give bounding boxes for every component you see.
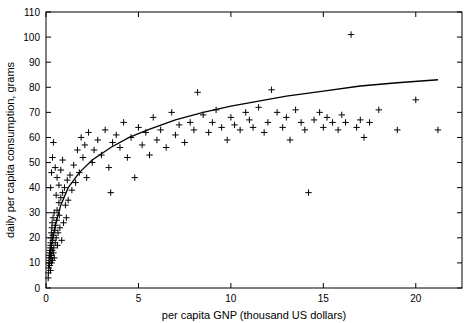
data-point-marker — [50, 139, 56, 145]
y-tick-label: 20 — [29, 232, 41, 243]
data-point-marker — [324, 114, 330, 120]
data-point-marker — [298, 119, 304, 125]
data-point-marker — [58, 167, 64, 173]
data-point-marker — [376, 107, 382, 113]
fit-curve — [49, 80, 438, 268]
y-tick-label: 60 — [29, 132, 41, 143]
data-point-marker — [250, 124, 256, 130]
data-point-marker — [91, 147, 97, 153]
y-tick-label: 50 — [29, 157, 41, 168]
data-point-marker — [52, 164, 58, 170]
data-point-marker — [305, 189, 311, 195]
y-tick-label: 10 — [29, 257, 41, 268]
data-point-marker — [194, 89, 200, 95]
data-point-marker — [59, 237, 65, 243]
data-point-marker — [132, 174, 138, 180]
data-point-marker — [120, 119, 126, 125]
data-point-marker — [85, 129, 91, 135]
data-point-marker — [342, 119, 348, 125]
data-point-marker — [339, 112, 345, 118]
data-point-marker — [139, 142, 145, 148]
data-point-marker — [335, 127, 341, 133]
data-point-marker — [157, 127, 163, 133]
data-point-marker — [69, 187, 75, 193]
x-tick-label: 20 — [410, 293, 422, 304]
data-point-marker — [154, 137, 160, 143]
data-point-marker — [124, 154, 130, 160]
data-point-marker — [265, 119, 271, 125]
data-point-marker — [117, 144, 123, 150]
y-tick-label: 90 — [29, 57, 41, 68]
data-point-marker — [329, 119, 335, 125]
data-points — [45, 31, 441, 281]
data-point-marker — [255, 104, 261, 110]
data-point-marker — [56, 182, 62, 188]
chart-container: 0102030405060708090100110 05101520 per c… — [0, 0, 476, 323]
data-point-marker — [366, 119, 372, 125]
data-point-marker — [48, 169, 54, 175]
data-point-marker — [287, 137, 293, 143]
data-point-marker — [163, 144, 169, 150]
data-point-marker — [274, 109, 280, 115]
data-point-marker — [67, 172, 73, 178]
x-tick-label: 15 — [318, 293, 330, 304]
data-point-marker — [62, 202, 68, 208]
data-point-marker — [279, 124, 285, 130]
data-point-marker — [146, 152, 152, 158]
data-point-marker — [59, 157, 65, 163]
data-point-marker — [83, 174, 89, 180]
data-point-marker — [209, 119, 215, 125]
x-axis-title: per capita GNP (thousand US dollars) — [162, 309, 346, 321]
data-point-marker — [65, 197, 71, 203]
y-tick-label: 0 — [34, 283, 40, 294]
data-point-marker — [82, 142, 88, 148]
data-point-marker — [54, 174, 60, 180]
data-point-marker — [172, 132, 178, 138]
data-point-marker — [302, 127, 308, 133]
scatter-plot: 0102030405060708090100110 05101520 per c… — [0, 0, 476, 323]
y-axis-title: daily per capita consumption, grams — [4, 61, 16, 238]
data-point-marker — [320, 124, 326, 130]
x-tick-label: 0 — [43, 293, 49, 304]
data-point-marker — [102, 127, 108, 133]
data-point-marker — [64, 177, 70, 183]
data-point-marker — [224, 137, 230, 143]
data-point-marker — [63, 215, 69, 221]
data-point-marker — [435, 127, 441, 133]
plot-frame — [46, 12, 462, 288]
y-axis-ticks: 0102030405060708090100110 — [23, 7, 462, 294]
data-point-marker — [176, 122, 182, 128]
x-axis-ticks: 05101520 — [43, 12, 422, 304]
x-tick-label: 5 — [136, 293, 142, 304]
data-point-marker — [242, 109, 248, 115]
data-point-marker — [348, 31, 354, 37]
data-point-marker — [353, 124, 359, 130]
data-point-marker — [113, 132, 119, 138]
data-point-marker — [74, 147, 80, 153]
y-tick-label: 100 — [23, 32, 40, 43]
data-point-marker — [60, 220, 66, 226]
data-point-marker — [150, 114, 156, 120]
data-point-marker — [228, 114, 234, 120]
data-point-marker — [80, 154, 86, 160]
y-tick-label: 110 — [24, 7, 40, 18]
y-tick-label: 40 — [29, 182, 41, 193]
data-point-marker — [316, 109, 322, 115]
data-point-marker — [413, 97, 419, 103]
data-point-marker — [292, 107, 298, 113]
data-point-marker — [106, 164, 112, 170]
y-tick-label: 70 — [29, 107, 41, 118]
data-point-marker — [283, 114, 289, 120]
y-tick-label: 30 — [29, 207, 41, 218]
data-point-marker — [237, 127, 243, 133]
data-point-marker — [47, 184, 53, 190]
data-point-marker — [261, 129, 267, 135]
data-point-marker — [231, 122, 237, 128]
data-point-marker — [135, 124, 141, 130]
data-point-marker — [191, 127, 197, 133]
data-point-marker — [181, 139, 187, 145]
data-point-marker — [357, 117, 363, 123]
data-point-marker — [311, 117, 317, 123]
data-point-marker — [206, 129, 212, 135]
x-tick-label: 10 — [225, 293, 237, 304]
